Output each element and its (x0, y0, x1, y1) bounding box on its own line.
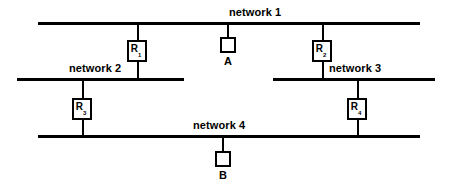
link-host-a (227, 22, 229, 38)
router-r4-subscript: 4 (358, 110, 361, 116)
router-r3[interactable]: R3 (72, 98, 92, 120)
network-bus-4 (38, 135, 420, 138)
host-b-box[interactable] (215, 151, 231, 167)
router-r1[interactable]: R1 (127, 40, 147, 62)
router-r1-subscript: 1 (138, 52, 141, 58)
router-r1-label: R1 (131, 44, 142, 58)
host-b-label: B (215, 170, 231, 181)
network-topology-diagram: network 1 network 2 network 3 network 4 … (0, 0, 452, 194)
network-label-4: network 4 (193, 119, 245, 131)
router-r2-label: R2 (316, 44, 327, 58)
network-label-3: network 3 (329, 62, 381, 74)
router-r2[interactable]: R2 (312, 40, 332, 62)
router-r3-label: R3 (76, 102, 87, 116)
network-bus-2 (17, 78, 184, 81)
router-r4[interactable]: R4 (347, 98, 367, 120)
host-a-label: A (220, 56, 236, 67)
host-a-box[interactable] (220, 37, 236, 53)
network-bus-1 (38, 22, 420, 25)
network-label-2: network 2 (69, 62, 121, 74)
router-r2-subscript: 2 (323, 52, 326, 58)
network-bus-3 (273, 78, 435, 81)
network-label-1: network 1 (229, 6, 281, 18)
link-host-b (222, 135, 224, 152)
router-r3-subscript: 3 (83, 110, 86, 116)
router-r4-label: R4 (351, 102, 362, 116)
